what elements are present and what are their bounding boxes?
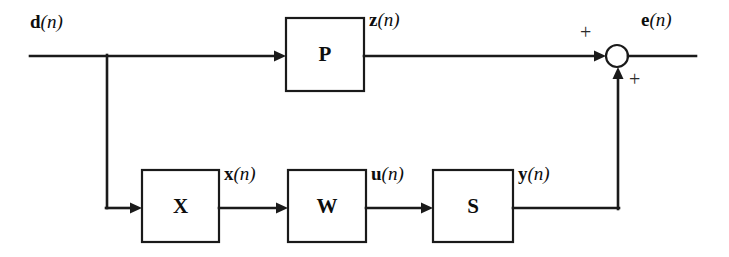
arrowhead-into-w bbox=[276, 203, 288, 214]
sum-sign-bottom: + bbox=[629, 69, 640, 89]
signal-index-z: (n) bbox=[377, 9, 399, 30]
arrowhead-into-x bbox=[130, 203, 142, 214]
signal-symbol-y: y bbox=[518, 163, 528, 184]
signal-index-u: (n) bbox=[382, 163, 404, 184]
signal-symbol-u: u bbox=[371, 163, 382, 184]
arrowhead-into-sum-left bbox=[594, 51, 606, 62]
signal-label-x: x(n) bbox=[224, 164, 256, 183]
signal-label-y: y(n) bbox=[518, 164, 550, 183]
block-diagram: P X W S d(n) z(n) bbox=[0, 0, 729, 257]
signal-label-u: u(n) bbox=[371, 164, 404, 183]
signal-label-d: d(n) bbox=[30, 12, 63, 31]
signal-symbol-d: d bbox=[30, 11, 41, 32]
signal-index-d: (n) bbox=[41, 11, 63, 32]
arrowhead-into-sum-bottom bbox=[613, 67, 624, 79]
signal-index-y: (n) bbox=[528, 163, 550, 184]
arrowhead-into-s bbox=[421, 203, 433, 214]
arrowhead-into-p bbox=[274, 51, 286, 62]
signal-label-z: z(n) bbox=[369, 10, 400, 29]
diagram-canvas: P X W S bbox=[0, 0, 729, 257]
signal-index-e: (n) bbox=[649, 9, 671, 30]
signal-label-e: e(n) bbox=[641, 10, 672, 29]
sum-sign-top: + bbox=[580, 22, 591, 42]
signal-index-x: (n) bbox=[234, 163, 256, 184]
signal-symbol-x: x bbox=[224, 163, 234, 184]
summing-junction bbox=[606, 45, 628, 67]
block-x-label: X bbox=[173, 194, 188, 218]
block-w-label: W bbox=[317, 194, 338, 218]
block-p-label: P bbox=[319, 42, 332, 66]
block-s-label: S bbox=[467, 194, 479, 218]
